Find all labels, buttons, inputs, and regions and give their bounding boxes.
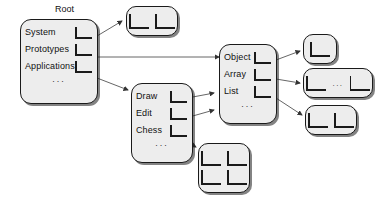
l-slot-icon	[254, 52, 271, 64]
cell-container	[304, 35, 336, 63]
app-row-chess-label: Chess	[136, 122, 162, 139]
proto-row-object[interactable]: Object	[220, 49, 276, 66]
l-slot-icon	[170, 91, 187, 103]
prototypes-more-indicator: ...	[220, 100, 276, 112]
chess-target-node[interactable]	[198, 143, 250, 193]
app-row-draw[interactable]: Draw	[132, 88, 192, 105]
proto-row-list[interactable]: List	[220, 83, 276, 100]
l-slot-icon	[129, 14, 149, 29]
edge-system-to-node	[97, 21, 122, 36]
l-slot-icon	[334, 113, 354, 128]
app-row-edit[interactable]: Edit	[132, 105, 192, 122]
l-slot-icon	[310, 42, 330, 57]
edge-applications-to-node	[97, 78, 128, 90]
root-node[interactable]: System Prototypes Applications ...	[20, 19, 98, 104]
app-row-edit-label: Edit	[136, 105, 152, 122]
l-slot-icon	[170, 108, 187, 120]
system-target-node[interactable]	[126, 6, 178, 36]
l-slot-icon	[201, 151, 221, 166]
proto-row-array-label: Array	[224, 66, 246, 83]
cell-container: ...	[304, 69, 372, 97]
cell-container	[306, 106, 356, 134]
root-row-system[interactable]: System	[21, 24, 97, 41]
cell-container	[199, 144, 249, 192]
cell-container	[127, 7, 177, 35]
diagram-canvas: Root System Prototypes Applications ... …	[0, 0, 380, 214]
app-row-draw-label: Draw	[136, 88, 157, 105]
array-target-node[interactable]: ...	[303, 68, 373, 98]
edge-object-to-node	[276, 51, 300, 60]
root-more-indicator: ...	[21, 75, 97, 87]
applications-more-indicator: ...	[132, 139, 192, 151]
l-slot-icon	[170, 125, 187, 137]
l-slot-icon	[306, 76, 326, 91]
list-target-node[interactable]	[305, 105, 357, 135]
root-row-system-label: System	[25, 24, 56, 41]
root-caption: Root	[55, 4, 74, 14]
l-slot-icon	[254, 86, 271, 98]
l-slot-icon	[254, 69, 271, 81]
root-row-prototypes[interactable]: Prototypes	[21, 41, 97, 58]
l-slot-icon	[201, 170, 221, 185]
l-slot-icon	[75, 61, 92, 73]
prototypes-node[interactable]: Object Array List ...	[219, 44, 277, 124]
proto-row-object-label: Object	[224, 49, 251, 66]
l-slot-icon	[227, 170, 247, 185]
object-target-node[interactable]	[303, 34, 337, 64]
edge-list-to-node	[276, 98, 302, 115]
l-slot-icon	[350, 76, 370, 91]
root-row-applications[interactable]: Applications	[21, 58, 97, 75]
l-slot-icon	[75, 27, 92, 39]
l-slot-icon	[75, 44, 92, 56]
app-row-chess[interactable]: Chess	[132, 122, 192, 139]
root-row-prototypes-label: Prototypes	[25, 41, 69, 58]
root-row-applications-label: Applications	[25, 58, 75, 75]
edge-array-to-node	[276, 79, 300, 83]
l-slot-icon	[308, 113, 328, 128]
array-dots: ...	[332, 79, 343, 88]
applications-node[interactable]: Draw Edit Chess ...	[131, 83, 193, 163]
l-slot-icon	[155, 14, 175, 29]
proto-row-array[interactable]: Array	[220, 66, 276, 83]
l-slot-icon	[227, 151, 247, 166]
proto-row-list-label: List	[224, 83, 238, 100]
